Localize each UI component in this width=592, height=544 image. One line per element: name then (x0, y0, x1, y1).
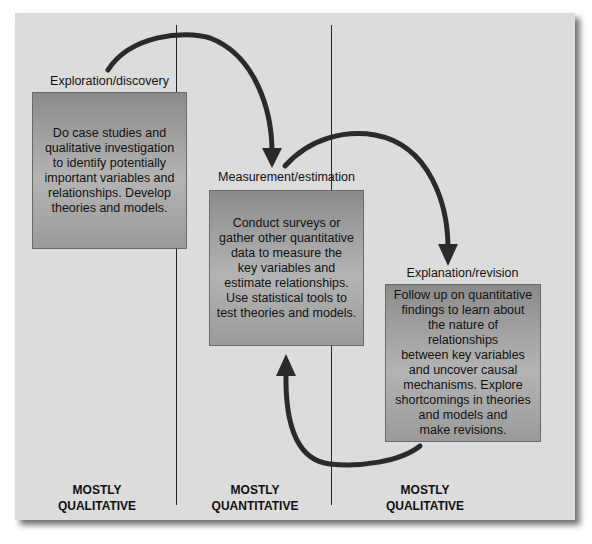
stage-box-measurement: Conduct surveys or gather other quantita… (209, 190, 364, 346)
stage-text-exploration: Do case studies and qualitative investig… (45, 126, 175, 216)
stage-box-explanation: Follow up on quantitative findings to le… (385, 284, 541, 442)
column-label-3: MOSTLY QUALITATIVE (345, 482, 505, 514)
stage-label-explanation: Explanation/revision (385, 266, 540, 280)
stage-label-exploration: Exploration/discovery (32, 74, 187, 88)
column-label-1: MOSTLY QUALITATIVE (32, 482, 162, 514)
stage-box-exploration: Do case studies and qualitative investig… (32, 92, 187, 249)
stage-label-measurement: Measurement/estimation (209, 170, 364, 184)
column-label-2: MOSTLY QUANTITATIVE (190, 482, 320, 514)
stage-text-measurement: Conduct surveys or gather other quantita… (217, 216, 357, 321)
stage-text-explanation: Follow up on quantitative findings to le… (392, 288, 534, 438)
